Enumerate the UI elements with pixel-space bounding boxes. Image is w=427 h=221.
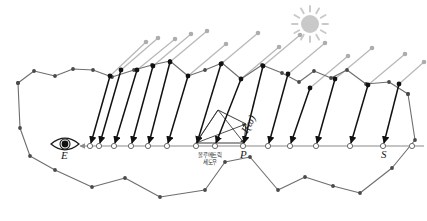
shadow-origin-node	[286, 72, 291, 77]
volumetric-shadow-diagram	[0, 0, 427, 221]
volumetric-shadow-edge	[196, 110, 218, 143]
shadow-origin-node	[186, 74, 191, 79]
sun-ray	[316, 35, 319, 40]
shadow-origin-node	[119, 68, 124, 73]
terrain-node	[53, 168, 57, 172]
shadow-ray	[168, 76, 188, 143]
label-eye: E	[61, 149, 68, 161]
shadow-origin-node	[239, 77, 244, 82]
terrain-node	[16, 81, 20, 85]
light-ray-node	[323, 41, 328, 46]
sample-point	[164, 143, 169, 148]
sample-point	[313, 143, 318, 148]
shadow-ray	[384, 84, 399, 143]
light-ray-node	[298, 33, 303, 38]
shadow-ray	[149, 62, 170, 143]
terrain-node	[248, 155, 252, 159]
light-ray	[288, 43, 325, 74]
light-ray	[241, 47, 279, 79]
terrain-node	[32, 69, 36, 73]
shadow-origin-node	[108, 74, 113, 79]
shadow-origin-node	[397, 82, 402, 87]
light-ray-node	[189, 32, 194, 37]
terrain-node	[413, 138, 417, 142]
shadow-ray	[91, 76, 110, 143]
volumetric-shadow-caption: 볼루메트릭 세도우	[178, 152, 242, 166]
terrain-node	[312, 69, 316, 73]
terrain-node	[387, 80, 391, 84]
label-point-s: S	[381, 148, 387, 160]
terrain-node	[203, 68, 207, 72]
sun-ray	[321, 15, 326, 18]
light-ray-node	[346, 54, 351, 59]
sun-ray	[316, 8, 319, 13]
shadow-origin-node	[219, 62, 224, 67]
terrain-node	[203, 188, 207, 192]
terrain-node	[280, 71, 284, 75]
shadow-ray	[291, 88, 310, 143]
terrain-node	[358, 191, 362, 195]
light-ray	[110, 42, 146, 76]
light-ray-node	[256, 31, 261, 36]
light-node-group	[144, 29, 427, 65]
sample-point	[87, 143, 92, 148]
terrain-node	[303, 175, 307, 179]
light-ray	[368, 54, 405, 85]
shadow-origin-node	[168, 60, 173, 65]
sample-point	[111, 143, 116, 148]
shadow-origin-node	[135, 68, 140, 73]
light-ray-node	[422, 60, 427, 65]
terrain-node	[297, 80, 301, 84]
terrain-node	[345, 68, 349, 72]
shadow-origin-node	[333, 77, 338, 82]
terrain-node	[329, 76, 333, 80]
light-ray	[221, 33, 258, 64]
sample-point	[193, 143, 198, 148]
sun-disc	[301, 15, 319, 33]
shadow-origin-node	[261, 64, 266, 69]
sun-ray	[321, 30, 326, 33]
volumetric-shadow-caption-line1: 볼루메트릭	[178, 152, 242, 159]
light-ray-node	[403, 52, 408, 57]
terrain-node	[71, 67, 75, 71]
shadow-ray	[269, 74, 288, 143]
terrain-node	[406, 92, 410, 96]
terrain-node	[390, 166, 394, 170]
light-ray-node	[144, 40, 149, 45]
light-ray-node	[224, 42, 229, 47]
shadow-origin-node	[366, 83, 371, 88]
terrain-node	[91, 68, 95, 72]
shadow-origin-node	[151, 64, 156, 69]
shadow-ray	[317, 79, 335, 143]
sample-point	[212, 143, 217, 148]
light-ray-node	[370, 46, 375, 51]
sample-point	[265, 143, 270, 148]
terrain-node	[331, 184, 335, 188]
terrain-node	[276, 188, 280, 192]
terrain-node	[123, 176, 127, 180]
light-ray	[188, 44, 226, 76]
terrain-node	[53, 74, 57, 78]
sun-ray	[294, 30, 299, 33]
light-ray	[399, 62, 424, 84]
sample-point	[128, 143, 133, 148]
figure-canvas: E P S I(ω) 볼루메트릭 세도우	[0, 0, 427, 221]
volumetric-shadow-caption-line2: 세도우	[178, 159, 242, 166]
light-ray	[263, 35, 300, 66]
light-ray-node	[205, 29, 210, 34]
sun-ray	[301, 8, 304, 13]
terrain-node	[158, 195, 162, 199]
sun-ray	[294, 15, 299, 18]
terrain-node	[28, 154, 32, 158]
light-ray-node	[173, 37, 178, 42]
sample-point	[409, 143, 414, 148]
shadow-ray	[197, 64, 221, 143]
sample-point	[287, 143, 292, 148]
shadow-ray	[351, 85, 368, 143]
light-ray-node	[156, 36, 161, 41]
light-ray-node	[277, 45, 282, 50]
terrain-node	[90, 185, 94, 189]
sample-point	[145, 143, 150, 148]
shadow-origin-node	[308, 86, 313, 91]
sample-point	[96, 143, 101, 148]
